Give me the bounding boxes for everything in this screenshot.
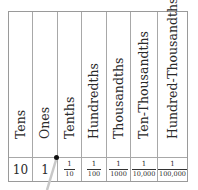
decimal-point-dot bbox=[54, 155, 59, 160]
decimal-pointer-line bbox=[0, 0, 198, 190]
